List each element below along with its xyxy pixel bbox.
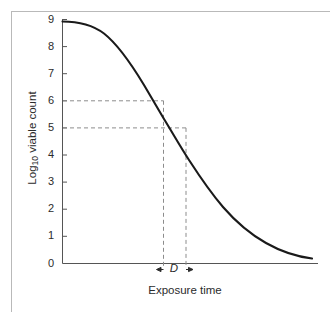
y-tick-label-6: 6 (38, 95, 54, 106)
y-tick-label-7: 7 (38, 68, 54, 79)
y-tick-label-5: 5 (38, 122, 54, 133)
y-tick-label-2: 2 (38, 203, 54, 214)
x-axis-label: Exposure time (60, 284, 310, 296)
y-axis-label-subscript: 10 (30, 156, 40, 165)
y-tick-label-4: 4 (38, 149, 54, 160)
y-tick-label-0: 0 (38, 258, 54, 269)
y-axis-label-prefix: Log (26, 165, 38, 184)
figure-panel: 9 8 7 6 5 4 3 2 1 0 Log10 viable count D… (0, 0, 330, 312)
y-tick-label-3: 3 (38, 176, 54, 187)
y-tick-label-1: 1 (38, 230, 54, 241)
y-tick-label-9: 9 (38, 14, 54, 25)
y-axis-label-suffix: viable count (26, 91, 38, 156)
y-tick-label-8: 8 (38, 41, 54, 52)
y-axis-label: Log10 viable count (26, 68, 38, 208)
d-value-label: D (150, 262, 198, 275)
d-value-span-marker: D (150, 262, 198, 276)
survival-curve (63, 22, 313, 259)
